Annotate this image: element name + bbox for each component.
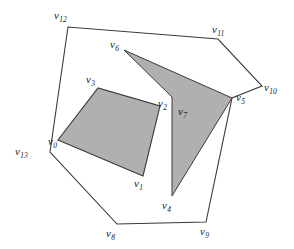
figure-canvas (0, 0, 294, 249)
vertex-label-v8: v8 (106, 228, 115, 239)
vertex-label-v2: v2 (158, 98, 167, 109)
vertex-label-v7-sub: 7 (183, 111, 187, 120)
vertex-label-v11: v11 (212, 24, 224, 35)
vertex-label-v1-sub: 1 (139, 183, 143, 192)
vertex-label-v6: v6 (110, 39, 119, 50)
vertex-label-v0-sub: 0 (53, 141, 57, 150)
vertex-label-v5: v5 (236, 92, 245, 103)
vertex-label-v7: v7 (178, 106, 187, 117)
vertex-label-v10-sub: 10 (269, 87, 277, 96)
vertex-label-v0: v0 (48, 136, 57, 147)
vertex-label-v6-sub: 6 (115, 44, 119, 53)
vertex-label-v1: v1 (134, 178, 143, 189)
vertex-label-v5-sub: 5 (241, 97, 245, 106)
vertex-label-v3: v3 (86, 74, 95, 85)
vertex-label-v4-sub: 4 (167, 205, 171, 214)
vertex-label-v10: v10 (264, 82, 276, 93)
vertex-label-v9-sub: 9 (205, 231, 209, 240)
vertex-label-v13-sub: 13 (20, 151, 28, 160)
vertex-label-v4: v4 (162, 200, 171, 211)
inner-quadrilateral (58, 88, 160, 176)
polygon-figure: v0 v1 v2 v3 v4 v5 v6 v7 v8 v9 v10 v11 v1… (0, 0, 294, 249)
vertex-label-v3-sub: 3 (91, 79, 95, 88)
vertex-label-v11-sub: 11 (217, 29, 224, 38)
vertex-label-v2-sub: 2 (163, 103, 167, 112)
vertex-label-v9: v9 (200, 226, 209, 237)
vertex-label-v8-sub: 8 (111, 233, 115, 242)
vertex-label-v12: v12 (54, 10, 66, 21)
vertex-label-v12-sub: 12 (59, 15, 67, 24)
vertex-label-v13: v13 (15, 146, 27, 157)
